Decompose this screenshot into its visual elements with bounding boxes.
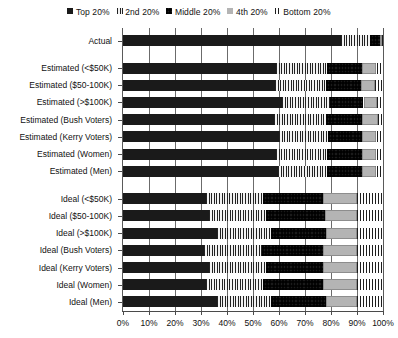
bar-segment-second[interactable] [204,245,263,256]
legend-item-bottom[interactable]: Bottom 20% [275,7,331,17]
bar-segment-top[interactable] [123,80,275,91]
bar-segment-bottom[interactable] [375,80,383,91]
bar-segment-fourth[interactable] [323,262,357,273]
bar-segment-middle[interactable] [370,35,380,46]
bar-row[interactable] [123,114,383,125]
bar-segment-second[interactable] [282,97,330,108]
bar-segment-second[interactable] [275,80,326,91]
legend-item-top[interactable]: Top 20% [67,7,109,17]
bar-segment-middle[interactable] [326,114,362,125]
bar-segment-middle[interactable] [327,149,362,160]
bar-row[interactable] [123,262,383,273]
bar-segment-top[interactable] [123,63,276,74]
bar-row[interactable] [123,279,383,290]
bar-segment-top[interactable] [123,35,341,46]
bar-segment-fourth[interactable] [362,114,378,125]
bar-segment-top[interactable] [123,193,206,204]
bar-segment-top[interactable] [123,245,204,256]
bar-segment-top[interactable] [123,166,278,177]
bar-segment-second[interactable] [341,35,370,46]
bar-segment-second[interactable] [217,296,272,307]
x-axis-tick [357,311,358,315]
bar-segment-second[interactable] [274,114,326,125]
bar-segment-middle[interactable] [263,279,323,290]
bar-segment-middle[interactable] [266,262,323,273]
legend-item-middle[interactable]: Middle 20% [166,7,220,17]
bar-segment-middle[interactable] [327,63,362,74]
legend-item-second[interactable]: 2nd 20% [117,7,160,17]
x-axis-label: 70% [296,318,313,328]
bar-segment-top[interactable] [123,228,217,239]
bar-segment-fourth[interactable] [323,279,357,290]
bar-segment-top[interactable] [123,97,282,108]
bar-segment-bottom[interactable] [377,166,384,177]
bar-segment-top[interactable] [123,262,209,273]
bar-segment-fourth[interactable] [362,166,376,177]
bar-segment-middle[interactable] [326,80,361,91]
y-axis-label: Estimated ($50-100K) [29,80,112,90]
bar-segment-second[interactable] [279,131,328,142]
wealth-distribution-chart: Top 20%2nd 20%Middle 20%4th 20%Bottom 20… [0,0,398,338]
bar-segment-top[interactable] [123,149,276,160]
bar-segment-top[interactable] [123,210,209,221]
bar-segment-bottom[interactable] [357,262,383,273]
bar-segment-bottom[interactable] [357,245,383,256]
bar-row[interactable] [123,63,383,74]
bar-row[interactable] [123,80,383,91]
bar-segment-second[interactable] [276,63,327,74]
bar-row[interactable] [123,35,383,46]
bar-segment-second[interactable] [217,228,272,239]
bar-segment-top[interactable] [123,279,206,290]
bar-row[interactable] [123,149,383,160]
bar-segment-second[interactable] [206,279,263,290]
bar-segment-bottom[interactable] [357,210,383,221]
bar-segment-bottom[interactable] [357,279,383,290]
bar-segment-middle[interactable] [327,166,362,177]
bar-segment-fourth[interactable] [364,97,377,108]
bar-segment-fourth[interactable] [323,245,357,256]
legend-item-fourth[interactable]: 4th 20% [227,7,267,17]
bar-segment-fourth[interactable] [326,228,357,239]
bar-row[interactable] [123,296,383,307]
bar-row[interactable] [123,97,383,108]
bar-segment-bottom[interactable] [377,63,384,74]
bar-segment-bottom[interactable] [357,296,383,307]
bar-segment-top[interactable] [123,114,274,125]
bar-segment-bottom[interactable] [357,228,383,239]
legend-swatch-icon [275,8,281,14]
bar-segment-middle[interactable] [271,228,326,239]
bar-row[interactable] [123,228,383,239]
bar-segment-fourth[interactable] [361,80,375,91]
bar-row[interactable] [123,131,383,142]
bar-segment-bottom[interactable] [377,149,384,160]
bar-segment-fourth[interactable] [326,296,357,307]
x-axis-label: 100% [372,318,394,328]
bar-segment-second[interactable] [209,210,266,221]
bar-row[interactable] [123,210,383,221]
bar-segment-middle[interactable] [328,131,362,142]
bar-row[interactable] [123,193,383,204]
bar-segment-second[interactable] [278,166,327,177]
bar-segment-fourth[interactable] [362,63,376,74]
bar-segment-middle[interactable] [330,97,364,108]
bar-segment-middle[interactable] [262,245,323,256]
bar-segment-second[interactable] [276,149,327,160]
bar-segment-fourth[interactable] [323,193,357,204]
bar-segment-fourth[interactable] [362,149,376,160]
bar-segment-bottom[interactable] [378,114,383,125]
bar-segment-bottom[interactable] [357,193,383,204]
bar-segment-middle[interactable] [266,210,325,221]
bar-segment-bottom[interactable] [377,97,384,108]
bar-row[interactable] [123,166,383,177]
bar-segment-fourth[interactable] [362,131,376,142]
bar-segment-second[interactable] [206,193,263,204]
bar-segment-top[interactable] [123,296,217,307]
bar-segment-second[interactable] [209,262,266,273]
bar-segment-middle[interactable] [271,296,326,307]
bar-row[interactable] [123,245,383,256]
bar-segment-bottom[interactable] [382,35,383,46]
bar-segment-fourth[interactable] [325,210,358,221]
bar-segment-top[interactable] [123,131,279,142]
bar-segment-bottom[interactable] [377,131,384,142]
bar-segment-middle[interactable] [263,193,323,204]
